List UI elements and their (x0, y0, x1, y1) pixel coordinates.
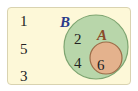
set-b-label: B (59, 14, 70, 30)
element-4: 4 (74, 55, 82, 71)
venn-diagram: 1 5 3 B 2 4 A 6 (0, 0, 138, 91)
set-a-circle (90, 42, 122, 74)
element-3: 3 (20, 68, 28, 84)
element-6: 6 (97, 57, 105, 73)
element-1: 1 (20, 13, 28, 29)
set-a-label: A (96, 27, 107, 43)
element-5: 5 (20, 41, 28, 57)
element-2: 2 (74, 31, 82, 47)
